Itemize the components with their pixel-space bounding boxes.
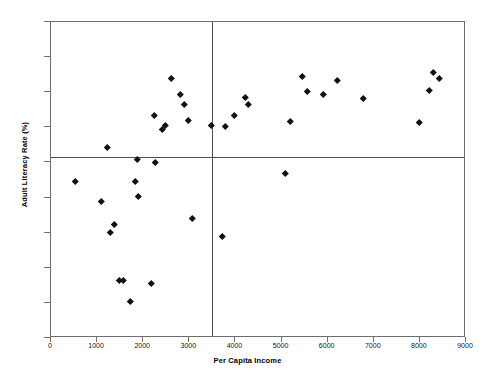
data-point [304,88,310,94]
x-tick-mark [234,337,235,342]
data-point [189,215,195,221]
data-point [320,91,326,97]
data-point [360,95,366,101]
data-point [111,221,117,227]
x-tick-label: 9000 [435,342,495,349]
data-point [299,73,305,79]
data-point [245,101,251,107]
x-tick-mark [50,337,51,342]
plot-area [50,21,465,337]
data-point [223,123,229,129]
data-point [334,77,340,83]
data-point [231,112,237,118]
scatter-chart: Adult Literacy Rate (%) Per Capita Incom… [0,0,495,375]
data-point [72,179,78,185]
data-point [282,170,288,176]
x-tick-mark [373,337,374,342]
x-tick-mark [465,337,466,342]
x-tick-mark [281,337,282,342]
data-point [426,87,432,93]
x-axis-title: Per Capita Income [0,356,495,365]
x-tick-mark [419,337,420,342]
data-point [107,229,113,235]
x-tick-mark [142,337,143,342]
data-point [148,280,154,286]
data-point [127,298,133,304]
data-point [416,120,422,126]
data-point [152,159,158,165]
x-tick-mark [96,337,97,342]
data-point [208,122,214,128]
data-point [135,193,141,199]
x-tick-mark [327,337,328,342]
data-point [132,179,138,185]
data-point [436,75,442,81]
data-point [168,75,174,81]
data-point [219,233,225,239]
y-axis-title: Adult Literacy Rate (%) [20,85,29,245]
data-point [185,117,191,123]
data-point [430,69,436,75]
data-point [98,199,104,205]
data-point [151,112,157,118]
data-point [120,277,126,283]
data-point [287,118,293,124]
data-point [104,144,110,150]
vertical-reference-line [212,22,213,336]
horizontal-reference-line [51,157,464,158]
x-tick-mark [188,337,189,342]
data-point [177,91,183,97]
data-point [181,101,187,107]
